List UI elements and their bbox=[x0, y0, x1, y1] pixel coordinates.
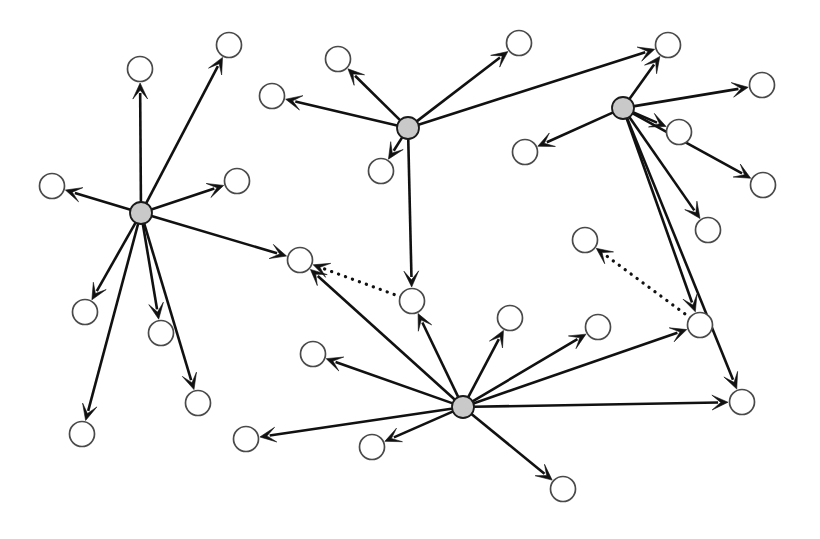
graph-edge-h1-l7 bbox=[144, 223, 191, 380]
graph-edge-l13-l23 bbox=[322, 268, 401, 297]
network-diagram-figure: H1H2H3H4L1L2L3L4L5L6L7L8L9L10L11L12L13L1… bbox=[0, 0, 820, 539]
graph-edge-h1-l6 bbox=[143, 223, 157, 309]
edge-layer bbox=[75, 52, 742, 474]
hub-node-h1[interactable]: H1 bbox=[130, 202, 152, 224]
graph-edge-h3-l15 bbox=[633, 89, 738, 106]
hub-node-h2[interactable]: H2 bbox=[397, 117, 419, 139]
graph-edge-h1-l4 bbox=[151, 189, 215, 210]
graph-edge-h1-l3 bbox=[75, 193, 131, 210]
leaf-node-l29[interactable]: L29 bbox=[551, 477, 576, 502]
leaf-node-l12[interactable]: L12 bbox=[507, 31, 532, 56]
graph-edge-h1-l23 bbox=[151, 216, 277, 253]
leaf-node-l27[interactable]: L27 bbox=[498, 306, 523, 331]
graph-edge-h1-l1 bbox=[140, 93, 141, 203]
graph-edge-h2-l9 bbox=[355, 76, 401, 121]
leaf-node-l28[interactable]: L28 bbox=[586, 315, 611, 340]
leaf-node-l3[interactable]: L3 bbox=[40, 174, 65, 199]
graph-edge-h2-l13 bbox=[408, 138, 411, 277]
arrowhead-icon bbox=[388, 142, 403, 159]
leaf-node-l2[interactable]: L2 bbox=[217, 33, 242, 58]
leaf-node-l19[interactable]: L19 bbox=[513, 140, 538, 165]
graph-edge-h3-l22 bbox=[627, 117, 733, 379]
leaf-node-l4[interactable]: L4 bbox=[225, 169, 250, 194]
graph-edge-h2-l10 bbox=[295, 101, 398, 125]
leaf-node-l13[interactable]: L13 bbox=[400, 289, 425, 314]
leaf-node-l15[interactable]: L15 bbox=[750, 73, 775, 98]
graph-edge-h4-l23 bbox=[318, 276, 456, 400]
hub-node-h4[interactable]: H4 bbox=[452, 396, 474, 418]
leaf-node-l17[interactable]: L17 bbox=[751, 173, 776, 198]
leaf-node-l21[interactable]: L21 bbox=[688, 313, 713, 338]
leaf-node-l20[interactable]: L20 bbox=[573, 228, 598, 253]
leaf-node-l14[interactable]: L14 bbox=[656, 33, 681, 58]
leaf-node-l25[interactable]: L25 bbox=[234, 427, 259, 452]
leaf-node-l26[interactable]: L26 bbox=[360, 435, 385, 460]
leaf-node-l7[interactable]: L7 bbox=[186, 391, 211, 416]
leaf-node-l10[interactable]: L10 bbox=[260, 84, 285, 109]
arrowhead-icon bbox=[596, 248, 613, 263]
leaf-node-l1[interactable]: L1 bbox=[128, 57, 153, 82]
graph-edge-h4-l29 bbox=[471, 413, 545, 473]
leaf-node-l6[interactable]: L6 bbox=[149, 321, 174, 346]
leaf-node-l18[interactable]: L18 bbox=[696, 218, 721, 243]
leaf-node-l23[interactable]: L23 bbox=[288, 248, 313, 273]
hub-node-h3[interactable]: H3 bbox=[612, 97, 634, 119]
graph-edge-h3-l19 bbox=[547, 112, 614, 142]
graph-edge-h4-l28 bbox=[472, 339, 578, 402]
arrowhead-icon bbox=[568, 334, 586, 349]
graph-edge-h3-l21 bbox=[626, 118, 692, 303]
leaf-node-l5[interactable]: L5 bbox=[73, 300, 98, 325]
graph-edge-h4-l25 bbox=[270, 408, 453, 435]
graph-edge-h3-l14 bbox=[629, 64, 654, 99]
graph-edge-h4-l21 bbox=[473, 333, 678, 404]
graph-edge-h4-l22 bbox=[473, 402, 718, 406]
leaf-node-l11[interactable]: L11 bbox=[369, 159, 394, 184]
leaf-node-l16[interactable]: L16 bbox=[667, 120, 692, 145]
leaf-node-l9[interactable]: L9 bbox=[326, 47, 351, 72]
network-graph-canvas: H1H2H3H4L1L2L3L4L5L6L7L8L9L10L11L12L13L1… bbox=[0, 0, 820, 539]
leaf-node-l8[interactable]: L8 bbox=[70, 422, 95, 447]
leaf-node-l22[interactable]: L22 bbox=[730, 390, 755, 415]
leaf-node-l24[interactable]: L24 bbox=[301, 342, 326, 367]
graph-edge-h2-l11 bbox=[394, 137, 403, 151]
